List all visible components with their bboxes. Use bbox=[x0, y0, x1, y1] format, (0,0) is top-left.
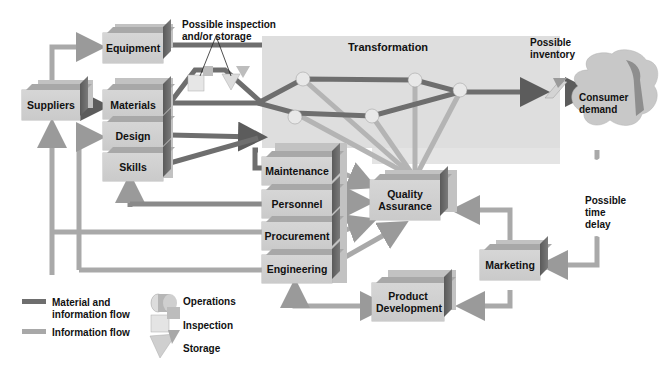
design-label: Design bbox=[115, 130, 150, 142]
quality-assurance-label: Quality Assurance bbox=[375, 188, 435, 212]
quality-assurance-box[interactable]: Quality Assurance bbox=[370, 180, 440, 220]
legend-information-flow: Information flow bbox=[52, 327, 130, 339]
inspection-storage-annotation: Possible inspection and/or storage bbox=[182, 19, 276, 43]
engineering-box[interactable]: Engineering bbox=[262, 255, 332, 283]
inventory-annotation: Possible inventory bbox=[530, 37, 575, 61]
operations-diagram: Transformation bbox=[0, 0, 670, 374]
marketing-label: Marketing bbox=[485, 259, 535, 271]
skills-label: Skills bbox=[119, 161, 146, 173]
legend-storage: Storage bbox=[183, 343, 220, 355]
engineering-label: Engineering bbox=[267, 263, 328, 275]
personnel-box[interactable]: Personnel bbox=[262, 190, 332, 218]
product-development-box[interactable]: Product Development bbox=[372, 283, 444, 321]
equipment-label: Equipment bbox=[106, 42, 160, 54]
consumer-demand-label: Consumer demand bbox=[579, 92, 631, 116]
suppliers-label: Suppliers bbox=[27, 99, 75, 111]
product-development-label: Product Development bbox=[376, 290, 440, 314]
design-box[interactable]: Design bbox=[103, 122, 163, 150]
personnel-label: Personnel bbox=[272, 198, 323, 210]
legend-inspection: Inspection bbox=[183, 320, 233, 332]
materials-label: Materials bbox=[110, 99, 156, 111]
materials-box[interactable]: Materials bbox=[103, 90, 163, 119]
maintenance-label: Maintenance bbox=[265, 165, 329, 177]
maintenance-box[interactable]: Maintenance bbox=[262, 157, 332, 185]
skills-box[interactable]: Skills bbox=[103, 153, 163, 181]
legend-operations: Operations bbox=[183, 296, 236, 308]
equipment-box[interactable]: Equipment bbox=[103, 33, 163, 63]
procurement-box[interactable]: Procurement bbox=[262, 222, 332, 250]
time-delay-annotation: Possible time delay bbox=[585, 195, 626, 231]
legend-material-flow: Material and information flow bbox=[52, 297, 130, 321]
suppliers-box[interactable]: Suppliers bbox=[22, 90, 80, 120]
marketing-box[interactable]: Marketing bbox=[480, 250, 540, 280]
procurement-label: Procurement bbox=[265, 230, 330, 242]
